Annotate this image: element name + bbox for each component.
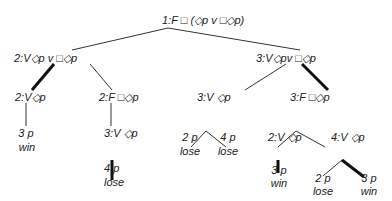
node-2-falsifier-box: 2:F □◇p (99, 91, 139, 104)
leaf-4p-b: 4 p (216, 131, 240, 144)
edge-n2-n5 (90, 64, 112, 90)
leaf-2p: 2 p (178, 131, 202, 144)
edge-n1-n2 (72, 28, 168, 50)
node-3-falsifier-box: 3:F □◇p (290, 91, 330, 104)
leaf-3p-b-outcome: win (266, 177, 292, 190)
node-2-verifier-diamond: 2:V◇p (15, 91, 46, 104)
leaf-4p-outcome: lose (104, 176, 132, 189)
node-4-verifier-diamond: 4:V ◇p (331, 131, 365, 144)
node-2-verifier-diamond-b: 2:V ◇p (268, 131, 302, 144)
leaf-2p-b: 2 p (311, 172, 335, 185)
edge-n2-n4 (32, 64, 54, 90)
edge-n1-n3 (168, 28, 300, 50)
leaf-3p-b: 3 p (268, 164, 290, 177)
leaf-3p-c-outcome: win (356, 185, 382, 198)
leaf-3p: 3 p (16, 127, 36, 140)
edge-n3-n7 (302, 64, 328, 90)
leaf-4p: 4 p (104, 162, 124, 175)
leaf-4p-b-outcome: lose (214, 145, 242, 158)
leaf-2p-b-outcome: lose (309, 185, 337, 198)
leaf-3p-c: 3 p (358, 172, 380, 185)
leaf-2p-outcome: lose (176, 145, 204, 158)
node-root: 1:F □ (◇p ᴠ □◇p) (162, 14, 244, 27)
leaf-3p-outcome: win (14, 141, 40, 154)
edge-n3-n6 (245, 64, 286, 90)
node-2-disjunction: 2:V◇p ᴠ □◇p (14, 52, 77, 65)
node-3-verifier-diamond-sub: 3:V ◇p (104, 127, 138, 140)
tree-edges (0, 0, 392, 201)
node-3-disjunction: 3:V◇pᴠ □◇p (256, 52, 316, 65)
node-3-verifier-diamond: 3:V ◇p (197, 91, 231, 104)
